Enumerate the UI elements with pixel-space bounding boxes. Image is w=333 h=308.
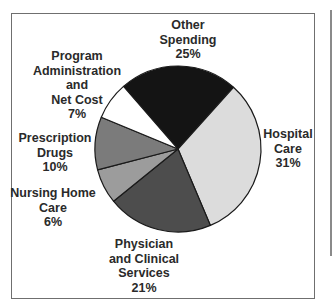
label-prescription-drugs: Prescription Drugs 10%: [19, 131, 92, 175]
label-nursing-home: Nursing Home Care 6%: [10, 186, 95, 230]
label-line: Care: [263, 142, 312, 157]
label-percent: 25%: [160, 47, 217, 62]
label-line: Net Cost: [33, 93, 121, 108]
label-percent: 7%: [33, 107, 121, 122]
label-line: and Clinical: [109, 252, 179, 267]
label-line: Services: [109, 266, 179, 281]
label-percent: 21%: [109, 281, 179, 296]
label-program-admin: Program Administration and Net Cost 7%: [33, 49, 121, 122]
label-other-spending: Other Spending 25%: [160, 18, 217, 62]
label-line: Spending: [160, 33, 217, 48]
label-line: Prescription: [19, 131, 92, 146]
label-hospital-care: Hospital Care 31%: [263, 127, 312, 171]
label-percent: 31%: [263, 156, 312, 171]
label-line: and: [33, 78, 121, 93]
label-line: Other: [160, 18, 217, 33]
label-line: Drugs: [19, 146, 92, 161]
label-line: Hospital: [263, 127, 312, 142]
label-line: Physician: [109, 237, 179, 252]
label-percent: 6%: [10, 215, 95, 230]
label-line: Care: [10, 201, 95, 216]
label-line: Administration: [33, 64, 121, 79]
label-physician-clinical: Physician and Clinical Services 21%: [109, 237, 179, 295]
label-line: Nursing Home: [10, 186, 95, 201]
label-line: Program: [33, 49, 121, 64]
label-percent: 10%: [19, 160, 92, 175]
